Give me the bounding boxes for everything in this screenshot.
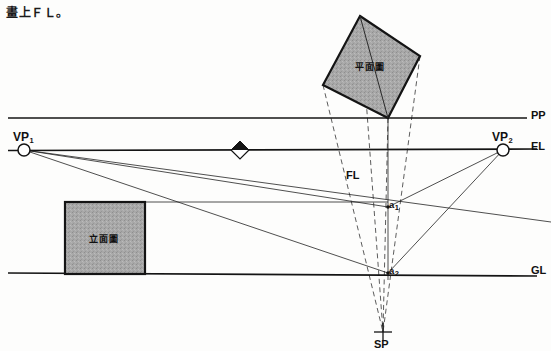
- line-el: [8, 149, 537, 151]
- label-vp1: VP1: [13, 131, 34, 143]
- label-fl: FL: [346, 170, 359, 181]
- center-of-vision-diamond-lower-outline: [231, 150, 249, 159]
- vp2-marker-circle: [497, 144, 509, 156]
- label-vp2: VP2: [492, 131, 513, 143]
- label-el: EL: [531, 141, 545, 152]
- label-vp2-subscript: 2: [508, 136, 513, 145]
- line-vp1-to-a1: [24, 150, 388, 207]
- line-vp2-to-a1: [388, 150, 503, 207]
- label-plan-view: 平面圖: [355, 60, 385, 73]
- label-pp: PP: [531, 110, 546, 121]
- label-gl: GL: [531, 265, 546, 276]
- label-vp1-subscript: 1: [29, 136, 34, 145]
- label-vp2-text: VP: [492, 130, 508, 144]
- vp1-marker-circle: [18, 144, 30, 156]
- label-a2: a2: [389, 266, 399, 276]
- label-a1-subscript: 1: [394, 203, 399, 212]
- label-sp: SP: [374, 339, 389, 350]
- label-vp1-text: VP: [13, 130, 29, 144]
- label-a2-subscript: 2: [394, 269, 399, 278]
- drawing-page: 畫上ＦＬ。: [0, 0, 551, 351]
- perspective-construction-diagram: [0, 0, 551, 351]
- dashed-plan-left-corner-to-sp: [323, 85, 383, 332]
- label-a1: a1: [389, 200, 399, 210]
- label-elevation-view: 立面圖: [89, 232, 119, 245]
